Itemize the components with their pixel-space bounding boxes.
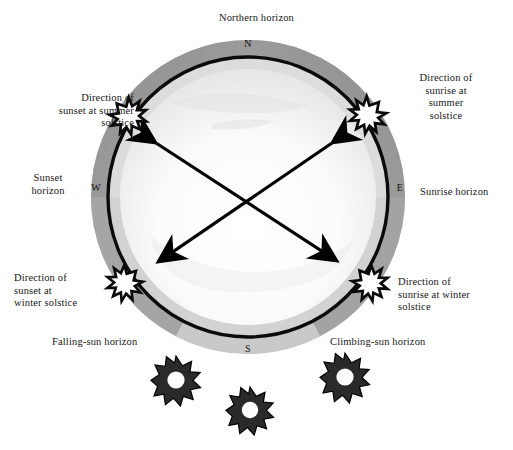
label-sunset-at-summer-solstice: Direction of sunset at summer solstice (6, 92, 134, 130)
sun-symbols (151, 353, 370, 435)
label-sunrise-horizon: Sunrise horizon (420, 186, 510, 199)
label-sunrise-at-winter-solstice: Direction of sunrise at winter solstice (398, 276, 512, 314)
sun-right (320, 353, 370, 403)
label-sunset-at-winter-solstice: Direction of sunset at winter solstice (14, 272, 136, 310)
cardinal-east-label: E (390, 182, 410, 193)
label-climbing-sun-horizon: Climbing-sun horizon (330, 336, 480, 349)
label-sunrise-at-summer-solstice: Direction of sunrise at summer solstice (384, 72, 508, 122)
label-falling-sun-horizon: Falling-sun horizon (52, 336, 192, 349)
horizon-calendar-diagram (0, 0, 513, 450)
diagram-canvas: Northern horizon Direction of sunset at … (0, 0, 513, 450)
sun-left (151, 356, 201, 406)
cardinal-west-label: W (86, 182, 106, 193)
cardinal-south-label: S (238, 343, 258, 354)
label-northern-horizon: Northern horizon (0, 12, 513, 25)
label-sunset-horizon: Sunset horizon (12, 172, 84, 197)
sun-center (226, 387, 274, 435)
cardinal-north-label: N (238, 38, 258, 49)
